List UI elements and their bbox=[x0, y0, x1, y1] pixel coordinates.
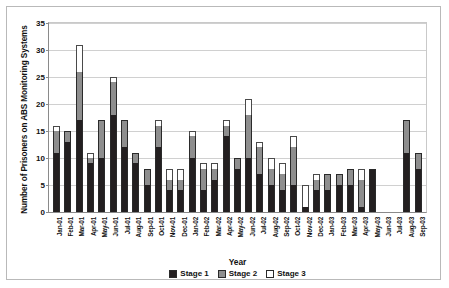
stacked-bar[interactable] bbox=[223, 120, 230, 212]
stacked-bar[interactable] bbox=[369, 169, 376, 212]
stacked-bar[interactable] bbox=[121, 120, 128, 212]
legend-label: Stage 1 bbox=[180, 269, 208, 278]
x-tick-slot: Apr-01 bbox=[84, 215, 95, 257]
bar-slot bbox=[51, 23, 62, 212]
x-tick-slot: Apr-02 bbox=[220, 215, 231, 257]
bar-segment-stage-1 bbox=[64, 142, 71, 212]
stacked-bar[interactable] bbox=[189, 131, 196, 212]
bar-segment-stage-2 bbox=[336, 174, 343, 185]
stacked-bar[interactable] bbox=[336, 174, 343, 212]
x-tick-slot: Jan-03 bbox=[323, 215, 334, 257]
bar-segment-stage-1 bbox=[144, 185, 151, 212]
legend-item[interactable]: Stage 2 bbox=[218, 269, 257, 278]
stacked-bar[interactable] bbox=[324, 174, 331, 212]
stacked-bar[interactable] bbox=[110, 77, 117, 212]
stacked-bar[interactable] bbox=[76, 45, 83, 212]
bar-segment-stage-1 bbox=[87, 163, 94, 212]
bar-segment-stage-2 bbox=[279, 174, 286, 190]
bar-segment-stage-2 bbox=[223, 126, 230, 137]
bar-segment-stage-1 bbox=[76, 120, 83, 212]
chart-frame: Number of Prisoners on ABS Monitoring Sy… bbox=[6, 6, 441, 280]
x-tick-slot: May-03 bbox=[368, 215, 379, 257]
legend-swatch-stage-1 bbox=[169, 270, 177, 278]
bar-segment-stage-2 bbox=[155, 126, 162, 148]
y-axis-tick-label: 20 bbox=[36, 100, 45, 109]
bar-segment-stage-2 bbox=[189, 136, 196, 158]
bar-slot bbox=[175, 23, 186, 212]
x-tick-slot: Apr-03 bbox=[357, 215, 368, 257]
bar-slot bbox=[390, 23, 401, 212]
x-tick-slot: Feb-03 bbox=[334, 215, 345, 257]
stacked-bar[interactable] bbox=[279, 163, 286, 212]
bar-segment-stage-1 bbox=[155, 147, 162, 212]
stacked-bar[interactable] bbox=[256, 142, 263, 212]
stacked-bar[interactable] bbox=[98, 120, 105, 212]
bar-segment-stage-2 bbox=[234, 158, 241, 169]
bar-segment-stage-1 bbox=[177, 190, 184, 212]
x-axis-tick-label: Sep-03 bbox=[419, 217, 426, 237]
stacked-bar[interactable] bbox=[155, 120, 162, 212]
bar-slot bbox=[164, 23, 175, 212]
bar-segment-stage-1 bbox=[53, 153, 60, 212]
x-tick-slot: Nov-01 bbox=[164, 215, 175, 257]
stacked-bar[interactable] bbox=[144, 169, 151, 212]
stacked-bar[interactable] bbox=[166, 169, 173, 212]
stacked-bar[interactable] bbox=[290, 136, 297, 212]
y-axis-tick-label: 10 bbox=[36, 154, 45, 163]
stacked-bar[interactable] bbox=[211, 163, 218, 212]
bar-segment-stage-2 bbox=[347, 169, 354, 185]
stacked-bar[interactable] bbox=[302, 185, 309, 212]
stacked-bar[interactable] bbox=[234, 158, 241, 212]
bar-segment-stage-2 bbox=[290, 147, 297, 185]
bar-segment-stage-1 bbox=[403, 153, 410, 212]
bar-segment-stage-3 bbox=[245, 99, 252, 115]
bar-segment-stage-1 bbox=[98, 158, 105, 212]
stacked-bar[interactable] bbox=[87, 153, 94, 212]
stacked-bar[interactable] bbox=[313, 174, 320, 212]
bar-segment-stage-3 bbox=[290, 136, 297, 147]
y-axis-tick-label: 30 bbox=[36, 46, 45, 55]
bar-segment-stage-1 bbox=[245, 158, 252, 212]
x-tick-slot: Mar-02 bbox=[209, 215, 220, 257]
x-tick-slot: Feb-01 bbox=[61, 215, 72, 257]
x-tick-slot: Oct-01 bbox=[152, 215, 163, 257]
stacked-bar[interactable] bbox=[53, 126, 60, 212]
stacked-bar[interactable] bbox=[358, 169, 365, 212]
legend-item[interactable]: Stage 1 bbox=[169, 269, 208, 278]
stacked-bar[interactable] bbox=[347, 169, 354, 212]
x-tick-slot: Jun-01 bbox=[107, 215, 118, 257]
bar-segment-stage-1 bbox=[369, 169, 376, 212]
stacked-bar[interactable] bbox=[200, 163, 207, 212]
legend-label: Stage 2 bbox=[229, 269, 257, 278]
bar-segment-stage-2 bbox=[313, 180, 320, 191]
bar-slot bbox=[62, 23, 73, 212]
bar-segment-stage-2 bbox=[358, 180, 365, 207]
bar-segment-stage-2 bbox=[256, 147, 263, 174]
y-axis-tick-label: 35 bbox=[36, 19, 45, 28]
bar-slot bbox=[130, 23, 141, 212]
bar-segment-stage-2 bbox=[132, 153, 139, 164]
bar-slot bbox=[220, 23, 231, 212]
bar-segment-stage-1 bbox=[279, 190, 286, 212]
stacked-bar[interactable] bbox=[403, 120, 410, 212]
bar-segment-stage-1 bbox=[290, 185, 297, 212]
x-tick-slot: Mar-03 bbox=[345, 215, 356, 257]
x-tick-slot: Jul-02 bbox=[254, 215, 265, 257]
legend-item[interactable]: Stage 3 bbox=[266, 269, 305, 278]
bar-series-group bbox=[49, 23, 426, 212]
bar-segment-stage-2 bbox=[415, 153, 422, 169]
x-tick-slot: Oct-02 bbox=[289, 215, 300, 257]
bar-slot bbox=[243, 23, 254, 212]
stacked-bar[interactable] bbox=[177, 169, 184, 212]
stacked-bar[interactable] bbox=[245, 99, 252, 212]
bar-segment-stage-2 bbox=[121, 120, 128, 147]
bar-segment-stage-2 bbox=[403, 120, 410, 152]
stacked-bar[interactable] bbox=[64, 131, 71, 212]
stacked-bar[interactable] bbox=[132, 153, 139, 212]
bar-slot bbox=[345, 23, 356, 212]
x-tick-slot: Aug-03 bbox=[402, 215, 413, 257]
stacked-bar[interactable] bbox=[268, 158, 275, 212]
stacked-bar[interactable] bbox=[415, 153, 422, 212]
bar-segment-stage-1 bbox=[223, 136, 230, 212]
bar-segment-stage-2 bbox=[177, 180, 184, 191]
